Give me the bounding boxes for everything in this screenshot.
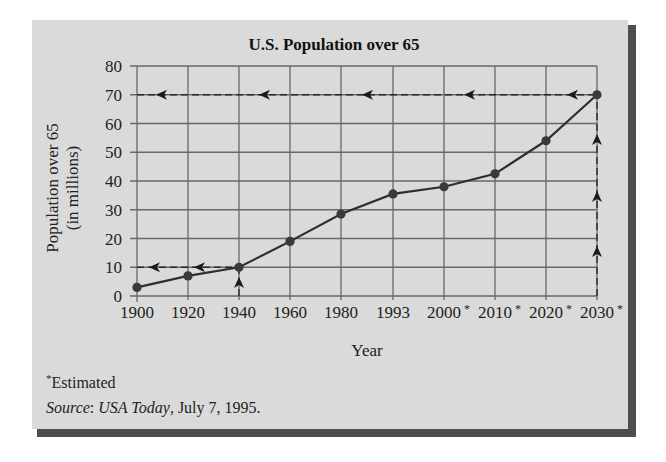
x-tick-label: 1993 [376,303,410,322]
footnote: *Estimated [46,372,115,391]
data-point [439,182,448,191]
data-point [183,271,192,280]
estimated-asterisk: * [464,302,470,316]
data-point [285,237,294,246]
x-tick-label: 2030 [580,303,614,322]
y-tick-label: 30 [105,201,122,220]
chart-svg: U.S. Population over 65 0102030405060708… [0,0,666,462]
y-axis-label: Population over 65 (in millions) [43,123,82,252]
y-tick-label: 60 [105,115,122,134]
data-point [336,209,345,218]
x-tick-label: 1960 [273,303,307,322]
estimated-asterisk: * [617,302,623,316]
y-axis-label-line1: Population over 65 [43,123,62,252]
x-tick-label: 2020 [529,303,563,322]
y-tick-label: 10 [105,258,122,277]
y-tick-label: 80 [105,57,122,76]
y-tick-label: 70 [105,86,122,105]
y-axis-ticks: 01020304050607080 [105,57,122,306]
estimated-asterisk: * [515,302,521,316]
data-point [388,189,397,198]
x-axis-ticks: 1900192019401960198019932000*2010*2020*2… [120,302,623,322]
estimated-asterisk: * [566,302,572,316]
x-tick-label: 2000 [427,303,461,322]
x-tick-label: 1920 [171,303,205,322]
x-tick-label: 2010 [478,303,512,322]
data-point [234,263,243,272]
source-note: Source: USA Today, July 7, 1995. [46,399,261,417]
dashed-guides [137,90,602,296]
x-axis-label: Year [351,341,383,360]
data-point [490,169,499,178]
data-series [132,90,601,292]
source-label: Source [46,399,90,416]
x-tick-label: 1980 [324,303,358,322]
chart-title: U.S. Population over 65 [248,35,419,54]
data-point [541,136,550,145]
y-tick-label: 50 [105,143,122,162]
y-tick-label: 20 [105,230,122,249]
x-tick-label: 1900 [120,303,154,322]
x-tick-label: 1940 [222,303,256,322]
source-publication: USA Today [98,399,170,417]
source-sep: : [90,399,98,416]
y-axis-label-line2: (in millions) [63,146,82,231]
footnote-text: Estimated [52,374,116,391]
data-point [592,90,601,99]
source-date: , July 7, 1995. [170,399,261,417]
data-point [132,283,141,292]
y-tick-label: 40 [105,172,122,191]
